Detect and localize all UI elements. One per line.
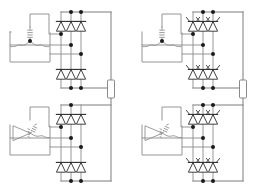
- bus-node: [79, 86, 83, 90]
- bus-node: [69, 103, 73, 107]
- phase-node-b: [69, 43, 73, 47]
- bus-node: [201, 10, 205, 14]
- phase-node-b: [201, 43, 205, 47]
- diode-upper-a: [56, 114, 66, 124]
- bus-node: [79, 10, 83, 14]
- diode-lower-a: [56, 69, 66, 79]
- diode-upper-c: [76, 114, 86, 124]
- phase-node-a: [59, 32, 63, 36]
- diode-lower-b: [66, 69, 76, 79]
- dc-output-rail-right: [240, 12, 247, 181]
- bus-node: [79, 179, 83, 183]
- bus-node: [69, 86, 73, 90]
- phase-node-c: [211, 145, 215, 149]
- diode-upper-b: [66, 21, 76, 31]
- bus-node: [201, 86, 205, 90]
- star-winding-icon: [11, 27, 49, 47]
- diode-lower-c: [76, 69, 86, 79]
- circuit-diagram: [0, 0, 264, 186]
- load-resistor-left: [108, 80, 115, 98]
- bus-node: [211, 103, 215, 107]
- star-winding-icon: [143, 27, 181, 47]
- phase-node-a: [191, 125, 195, 129]
- diode-lower-b: [66, 162, 76, 172]
- transformer-center-node: [160, 39, 164, 43]
- phase-node-b: [201, 136, 205, 140]
- phase-node-c: [79, 145, 83, 149]
- dc-output-rail-left: [108, 12, 115, 181]
- bus-node: [201, 179, 205, 183]
- bus-node: [211, 10, 215, 14]
- bus-node: [211, 86, 215, 90]
- bus-node: [211, 179, 215, 183]
- panel-top-right: [142, 10, 243, 90]
- diode-upper-c: [76, 21, 86, 31]
- transformer-center-node: [28, 39, 32, 43]
- diode-upper-a: [56, 21, 66, 31]
- phase-node-b: [69, 136, 73, 140]
- bus-node: [69, 10, 73, 14]
- panel-bottom-left: [10, 103, 111, 183]
- circuit-canvas: [0, 0, 264, 186]
- phase-node-a: [59, 125, 63, 129]
- phase-node-a: [191, 32, 195, 36]
- diode-lower-a: [56, 162, 66, 172]
- diode-upper-b: [66, 114, 76, 124]
- bus-node: [69, 179, 73, 183]
- phase-node-c: [211, 52, 215, 56]
- panel-bottom-right: [142, 103, 243, 183]
- diode-lower-c: [76, 162, 86, 172]
- phase-node-c: [79, 52, 83, 56]
- panel-top-left: [10, 10, 111, 90]
- load-resistor-right: [240, 80, 247, 98]
- bus-node: [201, 103, 205, 107]
